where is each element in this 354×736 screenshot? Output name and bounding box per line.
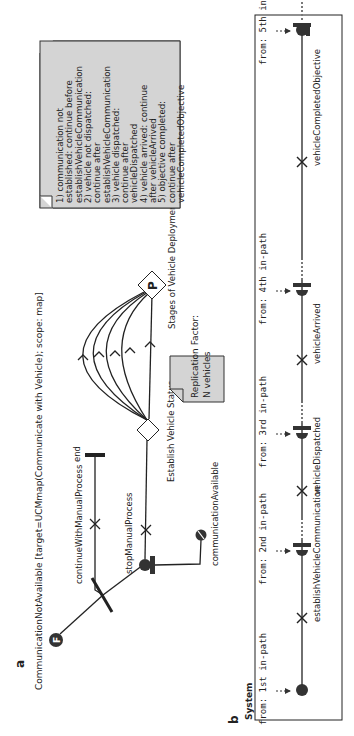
panel-b-label: b [227,715,241,724]
diagram-rotated: a CommunicationNotAvailable [target=UCMm… [0,0,354,736]
replication-note-line: Replication Factor: [190,315,200,398]
establish-vehicle-status-stub[interactable] [137,419,159,441]
in-path-label: from: 3rd in-path [258,376,268,468]
stages-stub-label: Stages of Vehicle Deployment [167,201,177,329]
path-comm-available [155,540,201,565]
end-bar [85,453,105,457]
waiting-place [296,550,308,556]
path-segment [60,595,103,634]
responsibility-label: establishVehicleCommunication [312,486,322,622]
waiting-place-bar [293,543,311,547]
waiting-place-bar [293,283,311,287]
waiting-place-bar [293,426,311,430]
in-path-label: from: 1st in-path [258,633,268,725]
start-point [296,684,308,696]
outgoing-paths [83,292,152,420]
comm-available-label: communicationAvailable [210,462,220,566]
waiting-place [296,290,308,296]
replication-note: Replication Factor: N vehicles [170,315,224,402]
panel-a-label: a [13,660,27,668]
in-path-label: from: 4th in-path [258,233,268,325]
continuation-note: 1) communication notestablished: continu… [40,41,186,208]
ucm-diagram: a CommunicationNotAvailable [target=UCMm… [0,0,354,736]
start-point-failure: F [49,633,63,647]
failure-start-letter: F [52,637,62,643]
responsibility-label: vehicleArrived [312,303,322,364]
replication-note-line: N vehicles [202,351,212,398]
end-label: end [72,446,82,462]
responsibility-label: vehicleCompletedObjective [312,49,322,166]
stop-path-label: stopManualProcess [124,492,134,574]
in-path-label: from: 5th in-path [258,0,268,65]
component-label: System [244,683,254,721]
stages-letter: P [146,281,160,290]
waiting-place-base [306,24,310,36]
path-segment [103,565,143,595]
continuation-note-line: vehicleCompletedObjective [176,85,186,203]
establish-stub-label: Establish Vehicle Status [166,380,176,482]
map-title: CommunicationNotAvailable [target=UCMmap… [34,292,44,690]
path-stop-manual [145,440,147,559]
start-point-comm-available [196,530,207,541]
waiting-place-junction [139,556,155,574]
direction-arrows [78,342,155,360]
waiting-place [296,433,308,439]
responsibility-label: vehicleDispatched [312,417,322,495]
continue-path-label: continueWithManualProcess [74,464,84,584]
in-path-label: from: 2nd in-path [258,493,268,585]
